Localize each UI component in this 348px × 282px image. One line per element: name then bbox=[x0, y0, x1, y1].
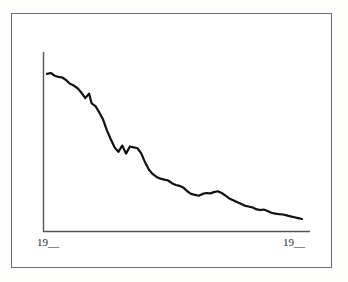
data-series-group bbox=[47, 73, 302, 219]
series-line-1 bbox=[47, 73, 302, 219]
x-axis-label-start: 19__ bbox=[37, 236, 59, 248]
chart-axes bbox=[43, 52, 310, 232]
chart-page: 19__ 19__ bbox=[0, 0, 348, 282]
x-axis-label-end: 19__ bbox=[283, 236, 305, 248]
